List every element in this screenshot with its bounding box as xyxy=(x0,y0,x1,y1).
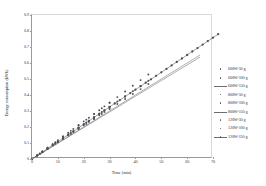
legend-item[interactable]: 800W-50 g xyxy=(213,91,266,97)
data-series xyxy=(31,74,149,160)
series-point xyxy=(109,102,111,104)
x-tick-mark xyxy=(32,157,33,159)
legend-marker-icon xyxy=(213,117,228,123)
series-point xyxy=(124,98,126,100)
series-point xyxy=(88,117,90,119)
series-point xyxy=(98,113,100,115)
series-point xyxy=(160,71,162,73)
series-point xyxy=(132,93,134,95)
x-tick-mark xyxy=(84,157,85,159)
legend-marker-icon xyxy=(213,66,228,72)
series-point xyxy=(147,74,149,76)
legend-item[interactable]: 120W-50 g xyxy=(213,117,266,123)
series-point xyxy=(41,151,43,153)
series-point xyxy=(145,82,147,84)
y-tick-mark xyxy=(30,15,32,16)
legend-marker-icon xyxy=(213,134,228,140)
chart-legend: 600W-50 g600W-100 g600W-150 g800W-50 g80… xyxy=(213,66,266,140)
series-point xyxy=(165,68,167,70)
series-point xyxy=(132,85,134,87)
series-point xyxy=(67,132,69,134)
legend-marker-icon xyxy=(213,75,228,81)
x-tick-mark xyxy=(187,157,188,159)
legend-label: 120W-100 g xyxy=(228,126,247,130)
legend-label: 120W-50 g xyxy=(228,118,245,122)
legend-item[interactable]: 600W-50 g xyxy=(213,66,266,72)
legend-marker-icon xyxy=(213,109,228,115)
series-point xyxy=(77,127,79,129)
legend-item[interactable]: 120W-150 g xyxy=(213,134,266,140)
y-tick-label: 0.2 xyxy=(24,125,29,129)
legend-item[interactable]: 800W-100 g xyxy=(213,100,266,106)
series-point xyxy=(170,64,172,66)
series-point xyxy=(116,103,118,105)
y-tick-mark xyxy=(30,127,32,128)
series-point xyxy=(93,113,95,115)
series-point xyxy=(70,130,72,132)
y-tick-mark xyxy=(30,79,32,80)
series-point xyxy=(78,124,80,126)
x-tick-mark xyxy=(135,157,136,159)
series-point xyxy=(116,96,118,98)
legend-item[interactable]: 120W-100 g xyxy=(213,125,266,131)
y-axis-title: Energy consumption (kWh) xyxy=(5,70,9,117)
y-tick-label: 0.8 xyxy=(24,29,29,33)
series-point xyxy=(124,95,126,97)
legend-label: 600W-150 g xyxy=(228,84,247,88)
series-point xyxy=(150,78,152,80)
legend-marker-icon xyxy=(213,92,228,98)
x-tick-label: 40 xyxy=(133,160,137,164)
series-point xyxy=(72,130,74,132)
series-point xyxy=(155,75,157,77)
series-point xyxy=(67,134,69,136)
series-point xyxy=(114,102,116,104)
y-tick-label: 0 xyxy=(27,157,29,161)
series-point xyxy=(46,147,48,149)
series-point xyxy=(72,128,74,130)
y-tick-label: 0.1 xyxy=(24,141,29,145)
series-point xyxy=(36,154,38,156)
legend-label: 600W-50 g xyxy=(228,67,245,71)
legend-item[interactable]: 800W-150 g xyxy=(213,108,266,114)
legend-label: 800W-50 g xyxy=(228,93,245,97)
x-tick-label: 60 xyxy=(185,160,189,164)
legend-item[interactable]: 600W-150 g xyxy=(213,83,266,89)
series-point xyxy=(52,144,54,146)
series-point xyxy=(196,47,198,49)
y-tick-mark xyxy=(30,95,32,96)
y-tick-mark xyxy=(30,47,32,48)
legend-marker-icon xyxy=(213,126,228,132)
series-point xyxy=(103,105,105,107)
legend-item[interactable]: 600W-100 g xyxy=(213,74,266,80)
series-point xyxy=(140,88,142,90)
series-point xyxy=(129,92,131,94)
y-tick-mark xyxy=(30,143,32,144)
series-point xyxy=(119,99,121,101)
series-point xyxy=(181,57,183,59)
series-point xyxy=(83,120,85,122)
series-point xyxy=(108,106,110,108)
series-point xyxy=(101,107,103,109)
series-point xyxy=(83,123,85,125)
x-tick-label: 30 xyxy=(108,160,112,164)
y-tick-mark xyxy=(30,111,32,112)
y-tick-mark xyxy=(30,63,32,64)
y-tick-label: 0.3 xyxy=(24,109,29,113)
y-tick-mark xyxy=(30,31,32,32)
x-tick-label: 50 xyxy=(159,160,163,164)
series-point xyxy=(93,116,95,118)
y-tick-label: 0.4 xyxy=(24,93,29,97)
y-tick-label: 0.7 xyxy=(24,45,29,49)
series-point xyxy=(140,79,142,81)
legend-label: 800W-150 g xyxy=(228,110,247,114)
series-point xyxy=(85,119,87,121)
series-point xyxy=(62,137,64,139)
series-point xyxy=(191,50,193,52)
series-point xyxy=(124,91,126,93)
x-tick-mark xyxy=(161,157,162,159)
y-tick-label: 0.5 xyxy=(24,77,29,81)
series-point xyxy=(134,89,136,91)
series-point xyxy=(212,37,214,39)
legend-marker-icon xyxy=(213,100,228,106)
x-tick-label: 10 xyxy=(56,160,60,164)
